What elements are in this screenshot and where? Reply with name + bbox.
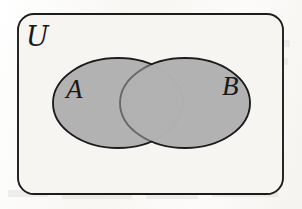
shading-grain bbox=[54, 59, 249, 147]
venn-diagram-canvas: U A B bbox=[0, 0, 302, 209]
venn-diagram-figure: U A B bbox=[0, 0, 302, 209]
universal-set-label: U bbox=[26, 21, 50, 52]
set-a-label: A bbox=[64, 74, 83, 104]
set-b-label: B bbox=[222, 71, 239, 101]
